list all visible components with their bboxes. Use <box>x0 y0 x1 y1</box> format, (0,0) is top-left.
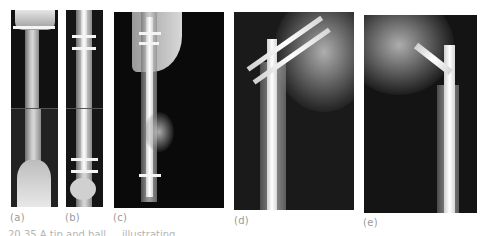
intramedullary-nail <box>81 10 87 170</box>
panel-label-b: (b) <box>65 212 80 223</box>
panel-label-c: (c) <box>113 212 127 223</box>
panel-label-a: (a) <box>10 212 25 223</box>
proximal-screw-1 <box>72 35 96 38</box>
pelvis <box>364 15 454 95</box>
film-split <box>66 108 103 109</box>
figure-caption: 20.35 A tip and ball ... illustrating ..… <box>8 229 188 236</box>
xray-panel-b <box>66 10 103 207</box>
xray-panel-a <box>11 10 58 207</box>
talus <box>70 178 96 200</box>
proximal-screw-2 <box>139 42 159 45</box>
callus <box>144 112 174 152</box>
xray-panel-c <box>114 12 224 208</box>
distal-screw-2 <box>71 170 98 173</box>
distal-screw-1 <box>71 158 98 161</box>
proximal-screw-2 <box>72 47 96 50</box>
proximal-screw <box>13 26 55 29</box>
distal-screw <box>139 174 161 177</box>
xray-panel-d <box>234 12 354 210</box>
panel-label-e: (e) <box>363 217 378 228</box>
xray-panel-e <box>364 15 477 213</box>
distal-metaphysis <box>17 160 51 207</box>
panel-label-d: (d) <box>234 215 249 226</box>
proximal-screw-1 <box>139 32 161 35</box>
